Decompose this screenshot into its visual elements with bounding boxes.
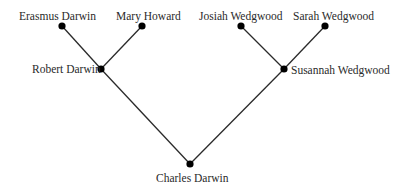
label-mary-howard: Mary Howard bbox=[116, 11, 181, 23]
node-charles-darwin bbox=[186, 160, 193, 167]
node-erasmus-darwin bbox=[58, 22, 65, 29]
edge-sarah-susannah bbox=[284, 26, 325, 69]
edges bbox=[62, 26, 325, 164]
edge-mary-robert bbox=[101, 26, 142, 69]
label-susannah-wedgwood: Susannah Wedgwood bbox=[291, 65, 390, 77]
node-sarah-wedgwood bbox=[321, 22, 328, 29]
node-josiah-wedgwood bbox=[237, 22, 244, 29]
label-sarah-wedgwood: Sarah Wedgwood bbox=[293, 11, 374, 23]
label-josiah-wedgwood: Josiah Wedgwood bbox=[199, 11, 283, 23]
edge-susannah-charles bbox=[190, 69, 284, 164]
label-robert-darwin: Robert Darwin bbox=[32, 64, 101, 76]
node-mary-howard bbox=[138, 22, 145, 29]
nodes bbox=[58, 22, 328, 167]
edge-robert-charles bbox=[101, 69, 190, 164]
label-erasmus-darwin: Erasmus Darwin bbox=[19, 11, 96, 23]
family-tree-diagram bbox=[0, 0, 404, 189]
edge-josiah-susannah bbox=[241, 26, 284, 69]
label-charles-darwin: Charles Darwin bbox=[156, 173, 229, 185]
node-susannah-wedgwood bbox=[280, 65, 287, 72]
